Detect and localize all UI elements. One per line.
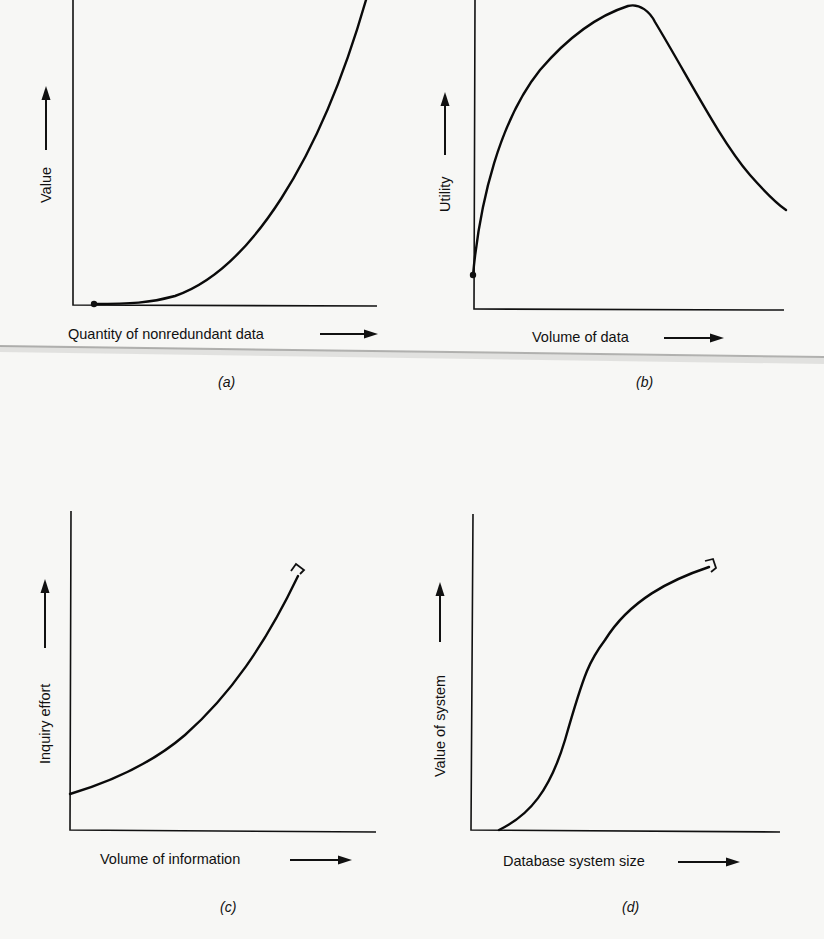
panel-d-xlabel: Database system size xyxy=(503,853,740,869)
figure-four-panel-charts: Value Quantity of nonredundant data (a) … xyxy=(0,0,824,939)
panel-d-curve xyxy=(499,567,709,830)
panel-c-ylabel-text: Inquiry effort xyxy=(37,684,53,764)
arrow-head-icon xyxy=(436,582,445,596)
arrow-head-icon xyxy=(710,334,724,343)
panel-a-curve xyxy=(94,0,366,304)
panel-c-curve xyxy=(70,576,298,794)
panel-b-axes xyxy=(474,0,784,310)
panel-a-ylabel-text: Value xyxy=(38,167,54,203)
panel-b: Utility Volume of data (b) xyxy=(437,0,786,390)
panel-d-ylabel-text: Value of system xyxy=(432,675,448,777)
panel-a-ylabel: Value xyxy=(38,86,54,203)
panel-b-xlabel: Volume of data xyxy=(532,329,724,345)
panel-c-axes xyxy=(70,511,376,832)
panel-c-xlabel: Volume of information xyxy=(100,851,352,867)
arrow-head-icon xyxy=(364,330,378,339)
panel-a-caption: (a) xyxy=(218,374,235,390)
panel-a-axes xyxy=(73,0,377,306)
panel-b-ylabel-text: Utility xyxy=(437,176,453,212)
panel-c-end-bracket-icon xyxy=(291,564,304,574)
panel-a-xlabel: Quantity of nonredundant data xyxy=(68,326,378,342)
panel-c: Inquiry effort Volume of information (c) xyxy=(37,511,376,915)
panel-c-xlabel-text: Volume of information xyxy=(100,851,240,867)
arrow-head-icon xyxy=(726,858,740,867)
panel-d-xlabel-text: Database system size xyxy=(503,853,645,869)
arrow-head-icon xyxy=(441,92,450,106)
arrow-head-icon xyxy=(41,579,50,593)
panel-b-start-dot xyxy=(470,272,476,278)
panel-a-xlabel-text: Quantity of nonredundant data xyxy=(68,326,265,342)
panel-b-caption: (b) xyxy=(636,374,653,390)
panel-d-caption: (d) xyxy=(622,899,639,915)
arrow-head-icon xyxy=(42,86,51,100)
panel-b-ylabel: Utility xyxy=(437,92,453,212)
panel-d-axes xyxy=(471,514,780,832)
panel-d-end-bracket-icon xyxy=(705,559,716,572)
panel-d: Value of system Database system size (d) xyxy=(432,514,780,915)
panel-a-start-dot xyxy=(91,301,97,307)
panel-b-curve xyxy=(473,5,786,275)
panel-d-ylabel: Value of system xyxy=(432,582,448,777)
panel-c-ylabel: Inquiry effort xyxy=(37,579,53,764)
panel-a: Value Quantity of nonredundant data (a) xyxy=(38,0,378,390)
panel-b-xlabel-text: Volume of data xyxy=(532,329,630,345)
arrow-head-icon xyxy=(338,856,352,865)
panel-c-caption: (c) xyxy=(220,899,236,915)
